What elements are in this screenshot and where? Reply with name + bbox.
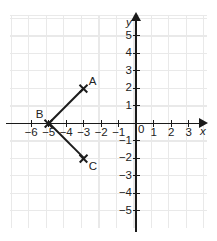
y-tick-label: 5 (118, 30, 132, 42)
y-tick-label: 3 (118, 65, 132, 77)
coordinate-plane: x y −6−5−4−3−2−112354321−1−2−3−4−5 0 ABC (0, 0, 217, 241)
y-tick-label: −2 (118, 153, 132, 165)
point-label-b: B (36, 109, 44, 121)
x-tick-label: 2 (168, 127, 174, 139)
y-tick (133, 105, 140, 106)
y-tick (133, 140, 140, 141)
y-tick (133, 193, 140, 194)
y-tick-label: −4 (118, 188, 132, 200)
y-tick-label: −1 (118, 135, 132, 147)
grid-lines (10, 15, 207, 228)
y-tick (133, 175, 140, 176)
y-tick (133, 158, 140, 159)
y-axis-label: y (126, 16, 132, 28)
point-label-c: C (89, 161, 97, 173)
y-tick-label: 4 (118, 48, 132, 60)
x-axis-line (6, 123, 202, 125)
x-tick-label: 1 (150, 127, 156, 139)
y-axis-arrow-icon (131, 12, 141, 21)
point-label-a: A (89, 76, 97, 88)
point-marker-a[interactable] (78, 83, 89, 94)
y-tick-label: −5 (118, 205, 132, 217)
x-tick-label: 3 (185, 127, 191, 139)
y-tick-label: −3 (118, 170, 132, 182)
point-marker-b[interactable] (43, 118, 54, 129)
y-tick-label: 2 (118, 83, 132, 95)
point-marker-c[interactable] (78, 153, 89, 164)
y-tick (133, 210, 140, 211)
x-axis-label: x (200, 125, 206, 137)
origin-label: 0 (138, 124, 144, 136)
y-tick (133, 53, 140, 54)
y-tick (133, 88, 140, 89)
x-tick-label: −3 (77, 127, 90, 139)
y-tick-label: 1 (118, 100, 132, 112)
x-tick-label: −2 (95, 127, 108, 139)
y-tick (133, 35, 140, 36)
y-tick (133, 70, 140, 71)
x-tick-label: −6 (25, 127, 38, 139)
